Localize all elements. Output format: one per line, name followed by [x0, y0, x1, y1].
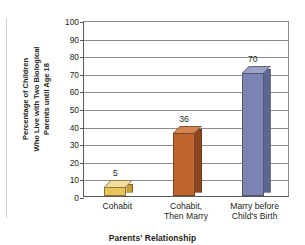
y-axis-tick-mark-0 — [80, 198, 84, 199]
plot-area: 010203040506070809010053670 — [83, 21, 289, 197]
y-axis-tick-label-50: 50 — [51, 106, 79, 115]
y-axis-tick-label-80: 80 — [51, 53, 79, 62]
bar-3: 70 — [242, 73, 264, 196]
y-axis-tick-mark-10 — [80, 180, 84, 181]
x-axis-category-label-3: Marry beforeChild's Birth — [210, 201, 300, 221]
bar-2-side — [195, 129, 202, 192]
gridline-90 — [84, 40, 288, 41]
bar-2: 36 — [173, 133, 195, 196]
y-axis-tick-label-60: 60 — [51, 88, 79, 97]
y-axis-tick-mark-80 — [80, 57, 84, 58]
y-axis-tick-mark-20 — [80, 163, 84, 164]
bar-3-face — [242, 73, 264, 196]
bar-2-face — [173, 133, 195, 196]
y-axis-title-line-1: Percentage of Children — [21, 58, 31, 140]
y-axis-tick-label-20: 20 — [51, 158, 79, 167]
page-scan-artifact-line — [6, 18, 7, 218]
y-axis-title-line-2: Who Live with Two Biological — [32, 47, 42, 152]
bar-chart-figure: Percentage of Children Who Live with Two… — [0, 0, 305, 245]
y-axis-tick-label-30: 30 — [51, 141, 79, 150]
y-axis-tick-mark-50 — [80, 110, 84, 111]
y-axis-tick-label-10: 10 — [51, 176, 79, 185]
y-axis-tick-label-100: 100 — [51, 18, 79, 27]
bar-2-value-label: 36 — [179, 115, 189, 124]
y-axis-tick-mark-30 — [80, 145, 84, 146]
y-axis-tick-mark-70 — [80, 75, 84, 76]
bar-1-value-label: 5 — [113, 169, 118, 178]
x-axis-category-label-3-line-2: Child's Birth — [210, 211, 300, 221]
x-axis-title: Parents' Relationship — [0, 233, 305, 243]
y-axis-tick-mark-100 — [80, 22, 84, 23]
y-axis-tick-mark-40 — [80, 128, 84, 129]
y-axis-tick-label-70: 70 — [51, 70, 79, 79]
bar-3-side — [264, 69, 271, 192]
y-axis-tick-label-90: 90 — [51, 35, 79, 44]
y-axis-tick-mark-60 — [80, 92, 84, 93]
bar-1-face — [104, 187, 126, 196]
bar-1: 5 — [104, 187, 126, 196]
y-axis-tick-label-40: 40 — [51, 123, 79, 132]
bar-3-value-label: 70 — [248, 55, 258, 64]
y-axis-title: Percentage of Children Who Live with Two… — [20, 15, 54, 183]
y-axis-tick-mark-90 — [80, 40, 84, 41]
x-axis-category-label-3-line-1: Marry before — [210, 201, 300, 211]
